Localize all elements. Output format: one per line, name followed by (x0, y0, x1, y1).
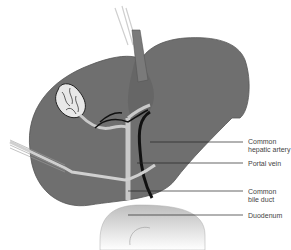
label-portal-vein: Portal vein (248, 160, 281, 168)
duodenum (100, 205, 205, 250)
label-common-bile-duct: Common bile duct (248, 188, 276, 204)
label-duodenum: Duodenum (248, 212, 282, 220)
label-common-hepatic-artery: Common hepatic artery (248, 138, 290, 154)
